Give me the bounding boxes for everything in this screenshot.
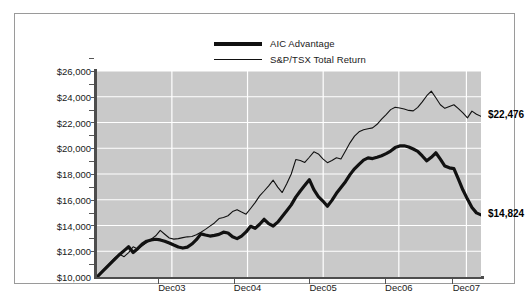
y-axis-minor-tick-mark — [91, 200, 94, 201]
chart-legend: AIC Advantage S&P/TSX Total Return — [214, 37, 444, 69]
legend-item-sp-tsx-total-return: S&P/TSX Total Return — [214, 53, 444, 66]
y-axis-tick-labels: $26,000$24,000$22,000$20,000$18,000$16,0… — [29, 71, 91, 277]
y-axis-tick-label: $24,000 — [57, 91, 91, 102]
y-axis-tick-mark — [89, 110, 94, 111]
y-axis-minor-tick-mark — [91, 251, 94, 252]
legend-item-aic-advantage: AIC Advantage — [214, 37, 444, 50]
x-axis-tick-mark — [385, 279, 386, 284]
x-axis-tick-mark — [158, 279, 159, 284]
y-axis-minor-tick-mark — [91, 122, 94, 123]
y-axis-minor-tick-mark — [91, 148, 94, 149]
x-axis-tick-label: Dec07 — [453, 282, 480, 293]
x-axis-tick-label: Dec05 — [309, 282, 336, 293]
y-axis-tick-mark — [89, 135, 94, 136]
x-axis-tick-mark — [234, 279, 235, 284]
y-axis-tick-mark — [89, 58, 94, 59]
y-axis-tick-mark — [89, 187, 94, 188]
series-line-s-p-tsx-total-return — [97, 91, 481, 277]
y-axis-minor-tick-mark — [91, 71, 94, 72]
y-axis-tick-label: $12,000 — [57, 246, 91, 257]
y-axis-tick-label: $18,000 — [57, 169, 91, 180]
x-axis-tick-label: Dec04 — [234, 282, 261, 293]
y-axis-tick-label: $16,000 — [57, 194, 91, 205]
x-axis-tick-label: Dec06 — [385, 282, 412, 293]
x-axis-tick-mark — [309, 279, 310, 284]
y-axis-minor-tick-mark — [91, 97, 94, 98]
chart-frame: AIC Advantage S&P/TSX Total Return $26,0… — [14, 13, 515, 284]
x-axis-tick-mark — [452, 279, 453, 284]
y-axis-minor-tick-mark — [91, 174, 94, 175]
y-axis-tick-label: $10,000 — [57, 272, 91, 283]
y-axis-tick-mark — [89, 238, 94, 239]
y-axis-tick-mark — [89, 264, 94, 265]
y-axis-minor-tick-mark — [91, 225, 94, 226]
legend-label-sp-tsx-total-return: S&P/TSX Total Return — [270, 54, 366, 65]
end-label-aic-advantage: $14,824 — [488, 208, 524, 219]
x-axis-tick-labels: Dec03Dec04Dec05Dec06Dec07 — [97, 282, 481, 296]
y-axis-tick-label: $26,000 — [57, 66, 91, 77]
legend-swatch-thick-line-icon — [214, 38, 262, 50]
series-line-aic-advantage — [97, 146, 481, 277]
end-label-sp-tsx: $22,476 — [488, 109, 524, 120]
y-axis-tick-label: $22,000 — [57, 117, 91, 128]
y-axis-tick-label: $20,000 — [57, 143, 91, 154]
legend-label-aic-advantage: AIC Advantage — [270, 38, 335, 49]
y-axis-tick-label: $14,000 — [57, 220, 91, 231]
series-lines — [97, 71, 481, 277]
plot-area — [97, 71, 481, 277]
y-axis-tick-mark — [89, 213, 94, 214]
legend-swatch-thin-line-icon — [214, 54, 262, 66]
y-axis-tick-mark — [89, 161, 94, 162]
x-axis-tick-label: Dec03 — [158, 282, 185, 293]
y-axis-tick-mark — [89, 84, 94, 85]
